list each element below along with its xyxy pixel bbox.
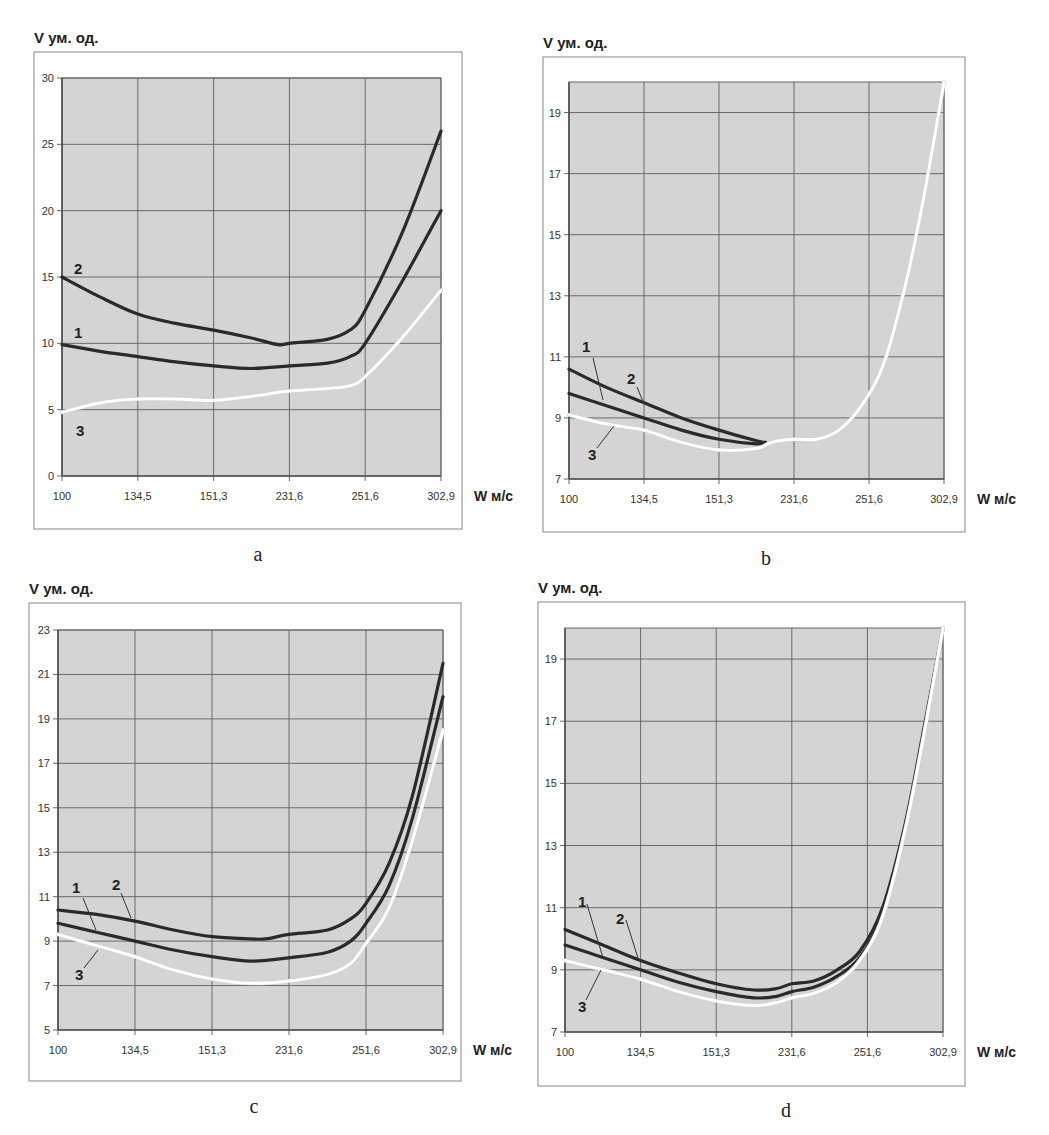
x-tick-label: 251,6 [854,1046,882,1058]
y-tick-label: 11 [39,891,50,903]
plot-area [565,628,943,1032]
y-tick-label: 25 [42,138,54,150]
x-tick-label: 151,3 [200,490,228,502]
x-tick-label: 251,6 [351,490,379,502]
y-tick-label: 13 [38,846,50,858]
y-tick-label: 15 [549,229,561,241]
y-tick-label: 17 [38,757,50,769]
y-tick-label: 17 [549,168,561,180]
y-tick-label: 5 [48,404,54,416]
curve-label-1: 1 [582,338,590,355]
x-tick-label: 100 [53,490,71,502]
curve-label-3: 3 [588,446,596,463]
y-tick-label: 7 [44,980,50,992]
x-axis-title: W м/с [977,491,1016,507]
y-tick-label: 13 [545,840,557,852]
x-tick-label: 231,6 [778,1046,806,1058]
y-tick-label: 11 [550,351,561,363]
y-axis-title: V ум. од. [34,29,98,46]
y-tick-label: 5 [44,1024,50,1036]
y-tick-label: 15 [42,271,54,283]
x-tick-label: 151,3 [702,1046,730,1058]
panel-caption-d: d [781,1099,791,1121]
x-tick-label: 134,5 [630,493,658,505]
curve-label-1: 1 [72,879,80,896]
curve-label-2: 2 [627,370,635,387]
x-tick-label: 134,5 [627,1046,655,1058]
x-tick-label: 231,6 [275,1044,303,1056]
y-tick-label: 10 [42,337,54,349]
y-tick-label: 30 [42,72,54,84]
curve-label-2: 2 [616,910,624,927]
y-tick-label: 0 [48,470,54,482]
y-tick-label: 20 [42,205,54,217]
y-tick-label: 19 [38,713,50,725]
y-tick-label: 9 [551,964,557,976]
x-axis-title: W м/с [473,1042,512,1058]
x-tick-label: 100 [49,1044,67,1056]
x-tick-label: 231,6 [276,490,304,502]
x-tick-label: 100 [556,1046,574,1058]
y-tick-label: 11 [546,902,557,914]
x-tick-label: 302,9 [429,1044,457,1056]
panel-caption-a: a [254,543,263,565]
y-axis-title: V ум. од. [543,34,607,51]
x-tick-label: 231,6 [780,493,808,505]
y-tick-label: 9 [44,935,50,947]
y-tick-label: 7 [555,473,561,485]
figure-canvas: V ум. од.051015202530100134,5151,3231,62… [0,0,1049,1135]
y-tick-label: 19 [549,107,561,119]
x-axis-title: W м/с [474,488,513,504]
x-tick-label: 134,5 [121,1044,149,1056]
x-axis-title: W м/с [977,1044,1016,1060]
x-tick-label: 302,9 [930,493,958,505]
x-tick-label: 251,6 [855,493,883,505]
y-tick-label: 19 [545,653,557,665]
panel-caption-c: c [250,1095,259,1117]
curve-label-2: 2 [74,260,82,277]
chart-panel-b: V ум. од.791113151719100134,5151,3231,62… [543,34,1016,532]
x-tick-label: 302,9 [427,490,455,502]
x-tick-label: 151,3 [198,1044,226,1056]
y-tick-label: 7 [551,1026,557,1038]
curve-label-3: 3 [75,966,83,983]
x-tick-label: 302,9 [929,1046,957,1058]
curve-label-3: 3 [76,422,84,439]
x-tick-label: 251,6 [352,1044,380,1056]
y-tick-label: 9 [555,412,561,424]
plot-area [569,82,944,479]
y-tick-label: 23 [38,624,50,636]
chart-panel-c: V ум. од.57911131517192123100134,5151,32… [29,580,512,1081]
y-axis-title: V ум. од. [29,580,93,597]
plot-area [58,630,443,1030]
panel-caption-b: b [761,547,771,569]
x-tick-label: 151,3 [705,493,733,505]
chart-panel-d: V ум. од.791113151719100134,5151,3231,62… [538,579,1016,1086]
curve-label-1: 1 [578,893,586,910]
curve-label-1: 1 [74,324,82,341]
y-tick-label: 13 [549,290,561,302]
chart-panel-a: V ум. од.051015202530100134,5151,3231,62… [34,29,513,529]
x-tick-label: 134,5 [124,490,152,502]
y-tick-label: 15 [38,802,50,814]
y-axis-title: V ум. од. [538,579,602,596]
x-tick-label: 100 [560,493,578,505]
y-tick-label: 17 [545,715,557,727]
curve-label-3: 3 [578,998,586,1015]
y-tick-label: 21 [38,668,50,680]
curve-label-2: 2 [112,876,120,893]
y-tick-label: 15 [545,777,557,789]
